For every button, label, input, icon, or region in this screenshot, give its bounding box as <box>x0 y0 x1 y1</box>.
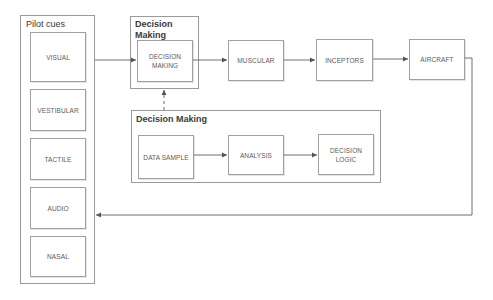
node-aircraft: AIRCRAFT <box>409 39 465 80</box>
decision-making-group-title: Decision Making <box>135 19 195 41</box>
node-inceptors: INCEPTORS <box>316 39 373 81</box>
node-decision-making: DECISION MAKING <box>137 40 193 82</box>
node-decision-logic: DECISION LOGIC <box>318 134 374 175</box>
node-vestibular: VESTIBULAR <box>30 89 86 131</box>
node-visual: VISUAL <box>30 32 86 82</box>
decision-making-detail-title: Decision Making <box>136 114 207 125</box>
node-audio: AUDIO <box>30 187 86 229</box>
node-muscular: MUSCULAR <box>228 40 284 81</box>
node-nasal: NASAL <box>30 236 86 277</box>
node-analysis: ANALYSIS <box>228 135 284 175</box>
pilot-cues-title: Pilot cues <box>26 19 65 30</box>
node-data-sample: DATA SAMPLE <box>138 135 194 179</box>
node-tactile: TACTILE <box>30 138 86 180</box>
